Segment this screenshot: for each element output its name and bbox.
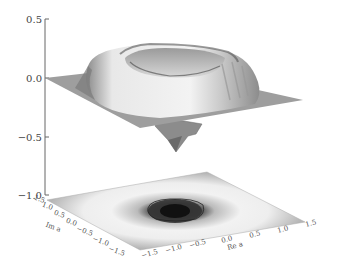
z-axis: 0.5 0.0 −0.5 −1.0 — [18, 14, 49, 201]
y-tick-label: −1.5 — [107, 245, 126, 258]
x-tick-label: 0.5 — [248, 229, 261, 240]
y-tick-label: −0.5 — [75, 225, 94, 238]
y-tick-label: 0.5 — [53, 209, 66, 220]
y-tick-label: −1.0 — [91, 235, 110, 248]
contour-projection — [47, 172, 305, 250]
x-tick-label: 1.0 — [276, 224, 289, 235]
z-tick-label: −0.5 — [18, 132, 42, 143]
surface-plot: 0.5 0.0 −0.5 −1.0 −1.5 −1.0 −0.5 0.0 0.5… — [0, 0, 338, 268]
y-tick-label: 0.0 — [65, 217, 78, 228]
z-tick-label: 0.5 — [26, 14, 42, 25]
z-tick-label: 0.0 — [26, 73, 42, 84]
x-tick-label: 1.5 — [304, 218, 317, 229]
surface — [45, 44, 303, 152]
y-axis-title: Im a — [44, 221, 62, 234]
